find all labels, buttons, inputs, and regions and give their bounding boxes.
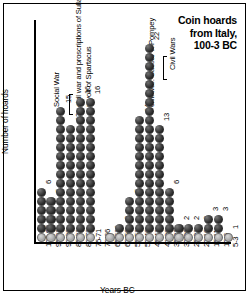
coin-unit [86, 206, 95, 215]
coin-unit [86, 152, 95, 161]
coin-unit [155, 215, 164, 224]
coin-unit [135, 161, 144, 170]
coin-unit [66, 134, 75, 143]
coin-unit [66, 215, 75, 224]
coin-unit [135, 170, 144, 179]
coin-unit [145, 197, 154, 206]
coin-unit [135, 215, 144, 224]
bar-column [56, 107, 65, 242]
coin-unit [76, 134, 85, 143]
bar-column [86, 98, 95, 242]
bar-value-label: 3 [211, 207, 220, 211]
coin-unit [165, 188, 174, 197]
coin-unit [155, 179, 164, 188]
coin-unit [66, 179, 75, 188]
coin-unit [56, 197, 65, 206]
bar-value-label: 6 [172, 180, 181, 184]
bar-value-label: 13 [162, 113, 171, 121]
coin-unit [145, 125, 154, 134]
coin-unit [86, 116, 95, 125]
coin-unit [86, 107, 95, 116]
coin-unit [145, 179, 154, 188]
coin-unit [56, 215, 65, 224]
coin-unit [145, 107, 154, 116]
coin-unit [125, 215, 134, 224]
chart-frame: Coin hoards from Italy, 100-3 BC Number … [3, 3, 246, 291]
coin-unit [76, 143, 85, 152]
coin-unit [76, 107, 85, 116]
coin-unit [37, 215, 46, 224]
coin-unit [76, 197, 85, 206]
coin-unit [155, 152, 164, 161]
bar-column [76, 98, 85, 242]
annotation-social-war: Social War [52, 72, 61, 107]
coin-unit [56, 125, 65, 134]
coin-unit [135, 179, 144, 188]
coin-unit [56, 116, 65, 125]
coin-unit [135, 143, 144, 152]
coin-unit [145, 215, 154, 224]
coin-unit [135, 206, 144, 215]
coin-unit [46, 206, 55, 215]
coin-unit [145, 161, 154, 170]
coin-unit [86, 98, 95, 107]
bar-value-label: 2 [182, 216, 191, 220]
bar-column [66, 125, 75, 242]
coin-unit [86, 179, 95, 188]
coin-unit [56, 188, 65, 197]
bar-value-label: 16 [93, 86, 102, 94]
coin-unit [56, 161, 65, 170]
coin-unit [66, 143, 75, 152]
coin-unit [155, 197, 164, 206]
coin-unit [76, 179, 85, 188]
coin-unit [145, 98, 154, 107]
coin-unit [214, 224, 223, 233]
bar-value-label: 1 [231, 225, 240, 229]
coin-unit [76, 215, 85, 224]
bar-column [155, 125, 164, 242]
coin-unit [86, 197, 95, 206]
coin-unit [66, 161, 75, 170]
coin-unit [86, 161, 95, 170]
coin-unit [214, 215, 223, 224]
coin-unit [145, 80, 154, 89]
coin-unit [46, 197, 55, 206]
coin-unit [37, 188, 46, 197]
coin-unit [145, 152, 154, 161]
coin-unit [145, 53, 154, 62]
coin-unit [145, 116, 154, 125]
coin-unit [56, 179, 65, 188]
bar-value-label: 16 [83, 86, 92, 94]
bar-value-label: 3 [221, 207, 230, 211]
coin-unit [145, 89, 154, 98]
bar-value-label: 15 [64, 95, 73, 103]
coin-unit [145, 44, 154, 53]
bracket-civil-wars [163, 56, 168, 80]
coin-unit [145, 62, 154, 71]
coin-unit [145, 71, 154, 80]
coin-unit [66, 188, 75, 197]
coin-unit [135, 125, 144, 134]
coin-unit [76, 125, 85, 134]
coin-unit [165, 215, 174, 224]
bar-value-label: 2 [192, 216, 201, 220]
coin-unit [66, 170, 75, 179]
x-tick-label: 5-3 [231, 237, 240, 247]
coin-unit [76, 152, 85, 161]
coin-unit [135, 134, 144, 143]
coin-unit [135, 152, 144, 161]
coin-unit [145, 206, 154, 215]
coin-unit [76, 98, 85, 107]
coin-unit [145, 188, 154, 197]
coin-unit [66, 197, 75, 206]
coin-unit [145, 134, 154, 143]
coin-unit [145, 143, 154, 152]
x-axis-label: Years BC [100, 285, 135, 295]
coin-unit [86, 215, 95, 224]
coin-unit [155, 206, 164, 215]
bar-column [145, 44, 154, 242]
coin-unit [76, 206, 85, 215]
coin-unit [86, 134, 95, 143]
coin-unit [125, 197, 134, 206]
coin-unit [204, 215, 213, 224]
